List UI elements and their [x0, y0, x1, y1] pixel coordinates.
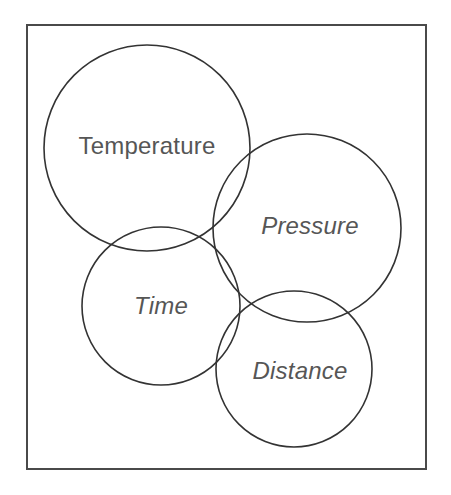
label-distance: Distance	[253, 357, 348, 384]
venn-diagram-canvas: Temperature Pressure Time Distance	[0, 0, 451, 495]
label-time: Time	[134, 292, 188, 319]
label-pressure: Pressure	[261, 212, 359, 239]
label-temperature: Temperature	[79, 132, 216, 159]
diagram-border	[27, 25, 426, 469]
venn-circles-group	[44, 45, 401, 447]
venn-diagram-figure: Temperature Pressure Time Distance	[0, 0, 451, 495]
